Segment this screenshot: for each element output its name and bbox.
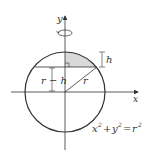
y-axis-label: y <box>56 13 63 24</box>
radius-line <box>65 67 97 92</box>
svg-text:2: 2 <box>97 121 102 128</box>
r-label: r <box>83 75 89 86</box>
svg-text:y: y <box>111 123 118 134</box>
h-label: h <box>106 54 112 65</box>
x-axis-label: x <box>133 94 138 104</box>
sphere-cap-diagram: h r − h r y x x 2 + y 2 = r 2 <box>0 0 152 156</box>
svg-text:+: + <box>103 123 111 134</box>
svg-text:2: 2 <box>117 121 122 128</box>
svg-text:=: = <box>123 123 131 134</box>
equation: x 2 + y 2 = r 2 <box>92 121 142 134</box>
r-minus-h-label: r − h <box>41 75 67 86</box>
svg-text:2: 2 <box>137 121 142 128</box>
